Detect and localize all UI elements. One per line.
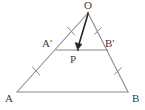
vertex-label-B: B xyxy=(132,93,139,104)
tick-mark-O-Ap xyxy=(67,27,74,35)
vertex-label-A: A xyxy=(5,93,13,104)
vertex-label-P: P xyxy=(70,54,76,65)
point-marker-O xyxy=(87,12,89,14)
vertex-label-A-prime: A' xyxy=(42,38,52,49)
vertex-label-O: O xyxy=(84,0,92,11)
segment-O-B xyxy=(88,13,128,92)
point-marker-P xyxy=(77,49,79,51)
vertex-label-B-prime: B' xyxy=(105,38,114,49)
geometry-figure: O A B A' B' P xyxy=(0,0,145,110)
segment-O-A xyxy=(17,13,88,92)
